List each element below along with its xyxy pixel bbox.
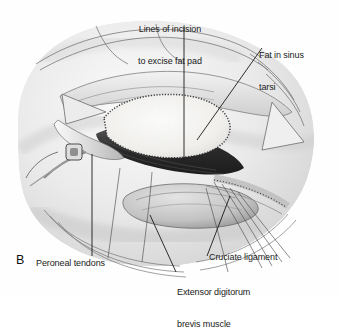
label-edb-line2: brevis muscle bbox=[177, 319, 250, 330]
label-fat-in-sinus-tarsi: Fat in sinus tarsi bbox=[259, 29, 304, 113]
label-incision-line1: Lines of incision bbox=[138, 24, 202, 35]
label-lines-of-incision: Lines of incision to excise fat pad bbox=[138, 3, 202, 87]
label-fat-line2: tarsi bbox=[259, 82, 304, 93]
label-cruciate-ligament: Cruciate ligament bbox=[209, 252, 277, 263]
panel-letter: B bbox=[16, 253, 24, 267]
label-peroneal-tendons: Peroneal tendons bbox=[36, 258, 105, 269]
label-edb-line1: Extensor digitorum bbox=[177, 287, 250, 298]
label-extensor-digitorum-brevis: Extensor digitorum brevis muscle bbox=[177, 266, 250, 331]
label-fat-line1: Fat in sinus bbox=[259, 50, 304, 61]
tendon-retaining-loop bbox=[66, 144, 82, 160]
label-incision-line2: to excise fat pad bbox=[138, 56, 202, 67]
